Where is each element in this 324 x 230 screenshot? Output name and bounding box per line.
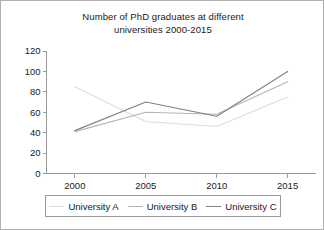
y-axis: 020406080100120 [25, 45, 47, 179]
y-tick-label: 40 [30, 127, 41, 138]
y-tick-label: 60 [30, 107, 41, 118]
y-tick-labels: 020406080100120 [25, 45, 41, 179]
x-tick-label: 2010 [206, 180, 227, 191]
y-tick-label: 120 [25, 45, 41, 56]
y-tick-label: 20 [30, 147, 41, 158]
y-tick-marks [43, 51, 47, 174]
x-axis: 2000200520102015 [47, 174, 317, 191]
data-series-group [75, 71, 288, 131]
legend-label: University C [225, 201, 276, 212]
y-tick-label: 100 [25, 66, 41, 77]
legend-swatch-icon [206, 206, 221, 207]
x-tick-marks [75, 174, 288, 178]
x-tick-label: 2005 [135, 180, 156, 191]
x-tick-label: 2015 [277, 180, 298, 191]
y-tick-label: 80 [30, 86, 41, 97]
series-line-university-a [75, 87, 288, 127]
legend-entry-university-c[interactable]: University C [206, 201, 276, 212]
legend-swatch-icon [128, 206, 143, 207]
series-line-university-c [75, 71, 288, 130]
y-tick-label: 0 [35, 168, 40, 179]
legend-entry-university-a[interactable]: University A [49, 201, 118, 212]
chart-legend: University AUniversity BUniversity C [45, 195, 281, 217]
legend-swatch-icon [49, 206, 64, 207]
x-tick-labels: 2000200520102015 [64, 180, 298, 191]
legend-label: University B [147, 201, 198, 212]
legend-label: University A [68, 201, 118, 212]
legend-entry-university-b[interactable]: University B [128, 201, 198, 212]
x-tick-label: 2000 [64, 180, 85, 191]
chart-card: Number of PhD graduates at different uni… [0, 0, 324, 230]
